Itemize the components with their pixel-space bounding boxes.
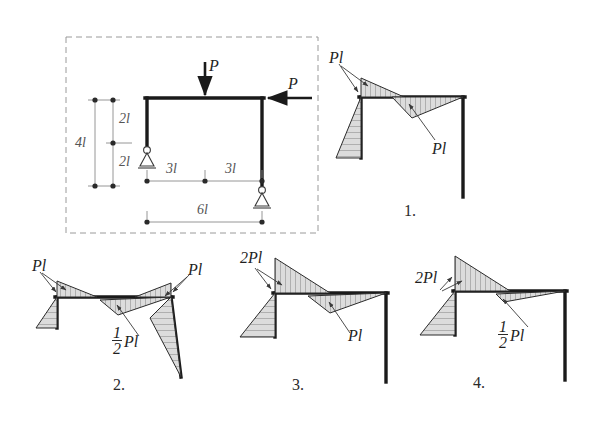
option-4-fraction-denominator: 2 xyxy=(498,334,508,351)
option-2-left-joint-area xyxy=(57,281,97,297)
option-4-fraction: 1 2 xyxy=(498,319,508,351)
dimension-label-2l-upper: 2l xyxy=(119,112,130,126)
option-2-label-right-column-moment: Pl xyxy=(188,262,202,278)
given-frame-group xyxy=(66,37,318,233)
dimension-label-3l-right: 3l xyxy=(225,162,236,176)
frame-members xyxy=(145,98,264,190)
figure-canvas xyxy=(0,0,600,432)
option-3-label-column-moment: 2Pl xyxy=(240,250,262,266)
option-2-right-column-area xyxy=(150,297,181,377)
option-3-column-moment-area xyxy=(240,293,275,337)
option-2-left-column-area xyxy=(36,297,57,328)
option-1-label-column-moment: Pl xyxy=(329,50,343,66)
vertical-load-label: P xyxy=(209,58,219,74)
option-3-label-beam-moment: Pl xyxy=(348,328,362,344)
dimension-3l-pair xyxy=(144,170,264,184)
option-1-column-moment-area xyxy=(336,97,361,158)
option-1-label-beam-moment: Pl xyxy=(432,141,446,157)
option-2-fraction-numerator: 1 xyxy=(112,325,122,340)
option-4-label-column-moment: 2Pl xyxy=(415,270,437,286)
option-2-number: 2. xyxy=(113,377,125,393)
figure-svg xyxy=(0,0,600,432)
left-pin-support xyxy=(138,147,156,168)
option-4-diagram xyxy=(420,256,567,380)
option-4-joint-moment-area xyxy=(455,256,510,291)
option-3-beam-moment-area xyxy=(308,293,386,313)
option-4-column-moment-area xyxy=(420,291,455,335)
option-1-number: 1. xyxy=(404,203,416,219)
option-2-label-beam-moment: 1 2 Pl xyxy=(112,326,138,358)
dimension-label-4l: 4l xyxy=(75,136,86,150)
option-2-fraction-unit: Pl xyxy=(124,334,138,350)
option-2-label-left-column-moment: Pl xyxy=(32,258,46,274)
option-3-joint-moment-area xyxy=(275,258,330,293)
option-2-fraction-denominator: 2 xyxy=(112,340,122,357)
option-3-number: 3. xyxy=(292,377,304,393)
option-4-fraction-numerator: 1 xyxy=(498,319,508,334)
option-4-fraction-unit: Pl xyxy=(510,328,524,344)
dimension-label-6l: 6l xyxy=(197,203,208,217)
option-4-label-beam-moment: 1 2 Pl xyxy=(498,320,524,352)
option-1-beam-moment-area xyxy=(392,97,463,118)
dimension-label-3l-left: 3l xyxy=(166,162,177,176)
option-4-number: 4. xyxy=(473,375,485,391)
option-2-fraction: 1 2 xyxy=(112,325,122,357)
right-pin-support xyxy=(253,187,271,208)
option-1-diagram xyxy=(336,64,465,197)
option-1-joint-moment-area xyxy=(361,78,404,97)
dashed-border xyxy=(66,37,318,233)
option-3-diagram xyxy=(240,258,388,382)
dimension-label-2l-lower: 2l xyxy=(119,155,130,169)
horizontal-load-label: P xyxy=(288,76,298,92)
